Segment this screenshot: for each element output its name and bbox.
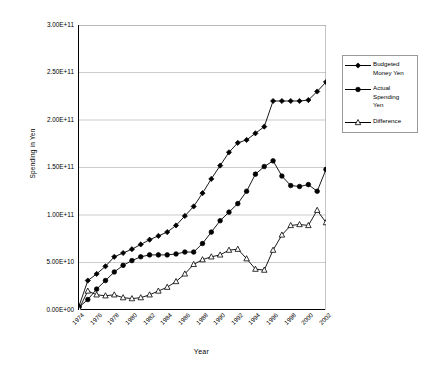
x-axis-tick-label: 1976 — [84, 312, 103, 331]
legend-label-line: Yen — [373, 101, 399, 110]
legend-label: Difference — [371, 117, 401, 126]
legend-marker-diamond-icon — [345, 61, 371, 70]
series-2 — [79, 159, 326, 310]
chart-legend: BudgetedMoney YenActualSpendingYenDiffer… — [342, 55, 418, 133]
line-chart: Spending in Yen 3.00E+112.50E+112.00E+11… — [0, 0, 424, 371]
x-axis-tick-label: 1984 — [155, 312, 174, 331]
legend-item: BudgetedMoney Yen — [345, 60, 414, 77]
x-axis-tick-label: 1986 — [173, 312, 192, 331]
x-axis-tick-label: 1998 — [279, 312, 298, 331]
plot-svg — [79, 25, 326, 310]
legend-label-line: Money Yen — [373, 69, 404, 78]
y-axis-tick-label: 1.00E+11 — [47, 212, 74, 218]
x-axis-tick-label: 2000 — [296, 312, 315, 331]
plot-area — [78, 25, 325, 310]
legend-label-line: Actual — [373, 84, 399, 93]
legend-item: ActualSpendingYen — [345, 84, 414, 110]
y-axis-tick-labels: 3.00E+112.50E+112.00E+111.50E+111.00E+11… — [8, 0, 74, 371]
legend-label-line: Spending — [373, 93, 399, 102]
x-axis-tick-label: 1990 — [208, 312, 227, 331]
legend-label-line: Difference — [373, 117, 401, 126]
x-axis-tick-label: 1988 — [190, 312, 209, 331]
legend-marker-triangle-icon — [345, 118, 371, 127]
x-axis-tick-label: 1992 — [226, 312, 245, 331]
y-axis-tick-label: 1.50E+11 — [47, 164, 74, 170]
x-axis-tick-label: 1996 — [261, 312, 280, 331]
x-axis-tick-label: 1980 — [120, 312, 139, 331]
legend-label: ActualSpendingYen — [371, 84, 399, 110]
y-axis-tick-label: 0.00E+00 — [46, 307, 74, 313]
series-1 — [79, 79, 326, 308]
y-axis-tick-label: 3.00E+11 — [47, 22, 74, 28]
x-axis-tick-label: 2002 — [314, 312, 333, 331]
y-axis-tick-label: 2.50E+11 — [47, 69, 74, 75]
series-3 — [79, 207, 326, 310]
legend-item: Difference — [345, 117, 414, 127]
y-axis-tick-label: 5.00E+10 — [46, 259, 74, 265]
legend-label-line: Budgeted — [373, 60, 404, 69]
legend-label: BudgetedMoney Yen — [371, 60, 404, 77]
x-axis-tick-label: 1978 — [102, 312, 121, 331]
y-axis-tick-label: 2.00E+11 — [47, 117, 74, 123]
x-axis-tick-label: 1994 — [243, 312, 262, 331]
legend-marker-circle-icon — [345, 85, 371, 94]
x-axis-tick-label: 1982 — [137, 312, 156, 331]
x-axis-title: Year — [78, 348, 325, 355]
